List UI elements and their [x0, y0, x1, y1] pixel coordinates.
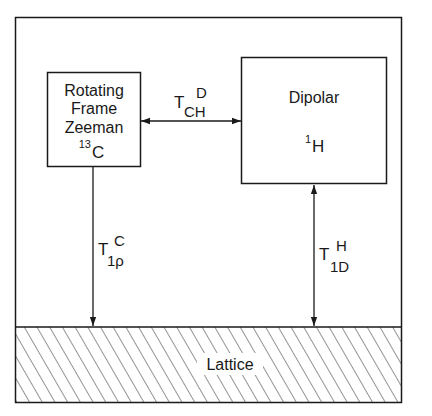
zeeman-line-1: Rotating — [64, 82, 124, 99]
t1d-symbol: T — [319, 245, 329, 264]
tch-subscript: CH — [184, 103, 206, 120]
dipolar-nucleus-mass: 1 — [305, 133, 311, 145]
t1rho-subscript: 1ρ — [107, 252, 124, 269]
zeeman-nucleus-mass: 13 — [79, 138, 91, 150]
t1d-superscript: H — [336, 237, 347, 254]
t1d-subscript: 1D — [330, 258, 349, 275]
t1rho-superscript: C — [114, 232, 125, 249]
zeeman-line-3: Zeeman — [65, 119, 124, 136]
zeeman-reservoir-box: Rotating Frame Zeeman 13 C — [48, 73, 141, 167]
dipolar-title: Dipolar — [289, 89, 340, 106]
dipolar-reservoir-box: Dipolar 1 H — [242, 58, 387, 184]
tch-superscript: D — [196, 84, 207, 101]
lattice-label: Lattice — [206, 356, 253, 373]
tch-symbol: T — [174, 93, 184, 112]
zeeman-line-2: Frame — [71, 100, 117, 117]
dipolar-nucleus-symbol: H — [312, 137, 324, 156]
lattice-reservoir: Lattice — [16, 327, 402, 403]
relaxation-diagram: Lattice Rotating Frame Zeeman 13 C Dipol… — [0, 0, 432, 416]
zeeman-nucleus-symbol: C — [92, 143, 104, 162]
